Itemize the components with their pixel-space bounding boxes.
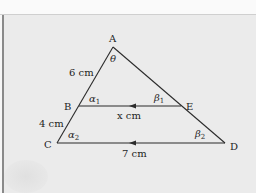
angle-label-beta2: β2 (194, 128, 205, 141)
vertex-label-e: E (186, 101, 193, 112)
parallel-arrow-icon (129, 104, 136, 109)
vertex-label-b: B (64, 101, 71, 112)
parallel-arrow-icon (129, 141, 136, 146)
vertex-label-c: C (44, 139, 52, 150)
angle-label-alpha2: α2 (68, 129, 79, 142)
vertex-label-a: A (108, 33, 117, 44)
angle-label-beta1: β1 (153, 92, 164, 105)
length-label-be: x cm (117, 110, 141, 121)
angle-label-alpha1: α1 (89, 93, 100, 106)
side-ac (57, 47, 113, 143)
length-label-ab: 6 cm (69, 67, 94, 78)
length-label-cd: 7 cm (122, 148, 147, 159)
side-ad (113, 47, 225, 143)
length-label-bc: 4 cm (39, 118, 64, 129)
triangle-diagram: A B E C D 6 cm 4 cm x cm 7 cm θ α1 β1 α2… (0, 0, 256, 193)
vertex-label-d: D (230, 141, 238, 152)
angle-label-theta: θ (110, 53, 116, 64)
